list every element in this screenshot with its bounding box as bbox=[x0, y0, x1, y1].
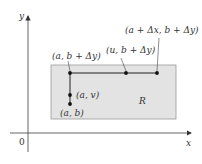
label-a-v: (a, v) bbox=[76, 90, 100, 100]
point-a-bdy bbox=[68, 71, 72, 75]
region-label: R bbox=[138, 96, 146, 106]
point-a-b bbox=[68, 102, 72, 106]
diagram-canvas: y x 0 R (a, b + Δy) (u, b + Δy) (a + Δx,… bbox=[0, 0, 202, 164]
point-a-v bbox=[68, 93, 72, 97]
origin-label: 0 bbox=[19, 137, 25, 147]
label-a-bdy: (a, b + Δy) bbox=[52, 51, 101, 61]
x-axis-label: x bbox=[186, 138, 191, 148]
point-adx-bdy bbox=[155, 71, 159, 75]
label-u-bdy: (u, b + Δy) bbox=[106, 45, 156, 55]
label-a-b: (a, b) bbox=[60, 108, 84, 118]
label-adx-bdy: (a + Δx, b + Δy) bbox=[125, 25, 199, 35]
y-axis-label: y bbox=[18, 11, 25, 21]
point-u-bdy bbox=[124, 71, 128, 75]
